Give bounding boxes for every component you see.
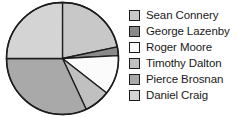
legend-label-pierce-brosnan: Pierce Brosnan: [146, 73, 223, 85]
legend-label-george-lazenby: George Lazenby: [146, 25, 230, 37]
legend-label-timothy-dalton: Timothy Dalton: [146, 57, 222, 69]
legend-item-daniel-craig[interactable]: Daniel Craig: [129, 87, 238, 103]
legend-item-george-lazenby[interactable]: George Lazenby: [129, 23, 238, 39]
legend-item-sean-connery[interactable]: Sean Connery: [129, 7, 238, 23]
legend-item-roger-moore[interactable]: Roger Moore: [129, 39, 238, 55]
pie-slice-group: [7, 3, 119, 115]
legend-item-timothy-dalton[interactable]: Timothy Dalton: [129, 55, 238, 71]
legend-swatch-timothy-dalton: [129, 58, 140, 69]
legend-label-sean-connery: Sean Connery: [146, 9, 218, 21]
pie-chart-plot-area: [0, 0, 126, 117]
legend-label-roger-moore: Roger Moore: [146, 41, 212, 53]
legend-swatch-roger-moore: [129, 42, 140, 53]
legend-label-daniel-craig: Daniel Craig: [146, 89, 208, 101]
legend-swatch-sean-connery: [129, 10, 140, 21]
legend-swatch-pierce-brosnan: [129, 74, 140, 85]
pie-slice[interactable]: [7, 3, 63, 59]
pie-chart-figure: Sean Connery George Lazenby Roger Moore …: [0, 0, 238, 117]
legend-item-pierce-brosnan[interactable]: Pierce Brosnan: [129, 71, 238, 87]
legend-swatch-george-lazenby: [129, 26, 140, 37]
pie-chart-svg: [0, 0, 126, 117]
legend-swatch-daniel-craig: [129, 90, 140, 101]
chart-legend: Sean Connery George Lazenby Roger Moore …: [129, 7, 238, 111]
